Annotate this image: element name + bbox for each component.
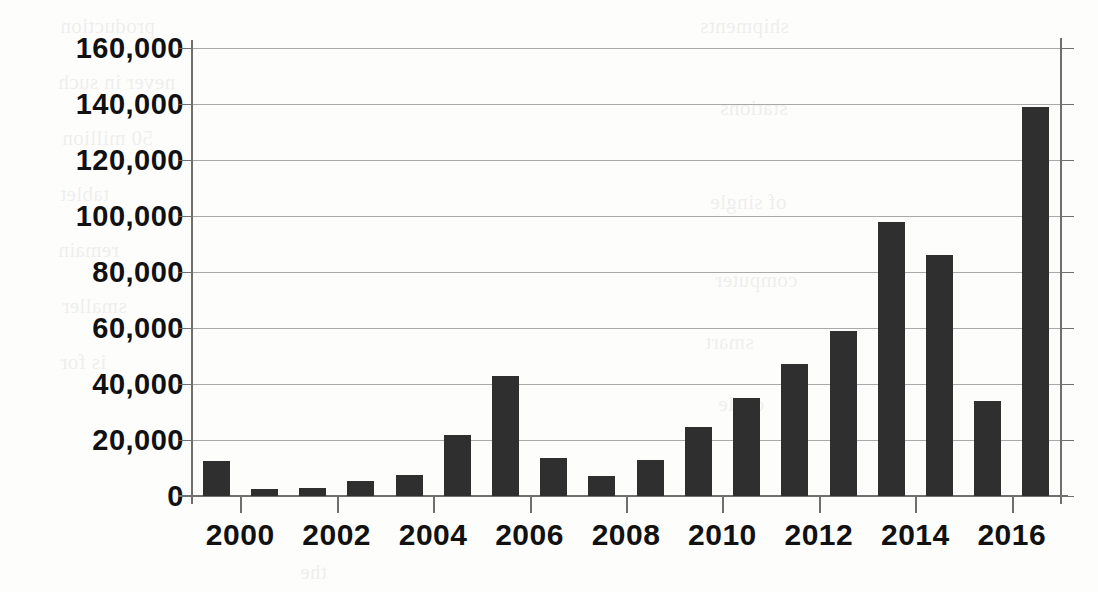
x-axis-labels: 200020022004200620082010201220142016 [192, 518, 1072, 560]
y-axis-tick-label: 100,000 [0, 200, 184, 233]
y-axis-tick-right [1060, 216, 1074, 217]
x-axis-tick-label: 2004 [399, 518, 468, 552]
x-axis-tick-label: 2006 [495, 518, 564, 552]
y-axis-tick-right [1060, 160, 1074, 161]
plot-area [192, 48, 1060, 496]
x-axis-tick [722, 496, 724, 513]
chart-page: production never in such 50 million tabl… [0, 0, 1098, 592]
x-axis-tick-label: 2016 [977, 518, 1046, 552]
y-axis-tick-label: 80,000 [0, 256, 184, 289]
y-axis-tick-label: 0 [0, 480, 184, 513]
y-axis-tick-right [1060, 104, 1074, 105]
bar [299, 488, 326, 496]
bar [685, 427, 712, 496]
x-axis-tick [1012, 496, 1014, 513]
x-axis-tick-label: 2002 [302, 518, 371, 552]
bleed-text: the [300, 560, 327, 585]
y-axis-line-right [1060, 38, 1062, 504]
x-axis-tick-label: 2008 [592, 518, 661, 552]
bar [251, 489, 278, 496]
y-axis-labels: 020,00040,00060,00080,000100,000120,0001… [0, 48, 184, 496]
x-axis-tick-label: 2000 [206, 518, 275, 552]
y-axis-tick-label: 140,000 [0, 88, 184, 121]
y-axis-tick-label: 60,000 [0, 312, 184, 345]
x-axis-tick-label: 2014 [881, 518, 950, 552]
y-axis-tick-right [1060, 272, 1074, 273]
bar [974, 401, 1001, 496]
x-axis-tick [530, 496, 532, 513]
bar [878, 222, 905, 496]
x-axis-tick-label: 2010 [688, 518, 757, 552]
y-axis-tick-label: 120,000 [0, 144, 184, 177]
bar [444, 435, 471, 496]
bar [203, 461, 230, 496]
bleed-text: shipments [700, 14, 789, 39]
x-axis-ticks [192, 496, 1060, 514]
bar [588, 476, 615, 496]
y-axis-tick-right [1060, 48, 1074, 49]
bar [540, 458, 567, 496]
y-axis-tick-right [1060, 384, 1074, 385]
bar [396, 475, 423, 496]
bar [781, 364, 808, 496]
x-axis-tick [819, 496, 821, 513]
bar [492, 376, 519, 496]
x-axis-tick [240, 496, 242, 513]
bar [1022, 107, 1049, 496]
x-axis-tick [626, 496, 628, 513]
y-axis-tick-label: 160,000 [0, 32, 184, 65]
y-axis-tick-label: 20,000 [0, 424, 184, 457]
bar [733, 398, 760, 496]
y-axis-tick-right [1060, 440, 1074, 441]
bar [637, 460, 664, 496]
bar-series [192, 48, 1060, 496]
bar [926, 255, 953, 496]
x-axis-tick [915, 496, 917, 513]
x-axis-tick [433, 496, 435, 513]
bar [830, 331, 857, 496]
bar [347, 481, 374, 496]
y-axis-tick-label: 40,000 [0, 368, 184, 401]
y-axis-tick-right [1060, 328, 1074, 329]
x-axis-tick [337, 496, 339, 513]
x-axis-tick-label: 2012 [785, 518, 854, 552]
